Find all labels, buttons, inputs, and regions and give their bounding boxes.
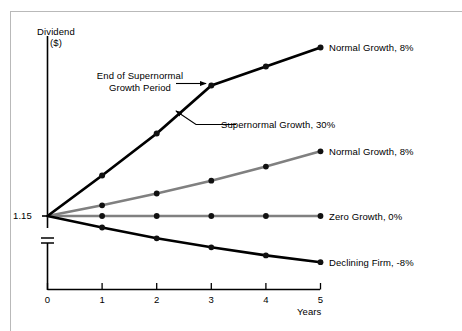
- x-axis-title: Years: [297, 306, 321, 318]
- y-axis-title-line2: ($): [26, 37, 86, 49]
- x-tick-label-4: 4: [256, 294, 276, 306]
- series-label-normal-growth: Normal Growth, 8%: [329, 146, 414, 158]
- series-label-supernormal-normal-growth: Normal Growth, 8%: [329, 42, 414, 54]
- y-axis-origin-label: 1.15: [13, 210, 32, 222]
- annotation-end-of-supernormal-line2: Growth Period: [82, 82, 198, 94]
- series-zero-growth: [48, 213, 324, 219]
- series-label-zero-growth: Zero Growth, 0%: [329, 211, 402, 223]
- x-tick-label-1: 1: [92, 294, 112, 306]
- series-declining-firm: [48, 216, 324, 265]
- x-tick-label-5: 5: [311, 294, 331, 306]
- annotation-end-of-supernormal-line1: End of Supernormal: [82, 70, 198, 82]
- x-tick-label-2: 2: [147, 294, 167, 306]
- series-label-declining-firm: Declining Firm, -8%: [329, 257, 414, 269]
- annotation-supernormal-callout-label: Supernormal Growth, 30%: [221, 119, 335, 131]
- x-axis-ticks: [48, 283, 321, 290]
- x-tick-label-0: 0: [38, 294, 58, 306]
- x-tick-label-3: 3: [201, 294, 221, 306]
- y-axis-title-line1: Dividend: [26, 26, 86, 38]
- series-normal-growth: [48, 148, 324, 216]
